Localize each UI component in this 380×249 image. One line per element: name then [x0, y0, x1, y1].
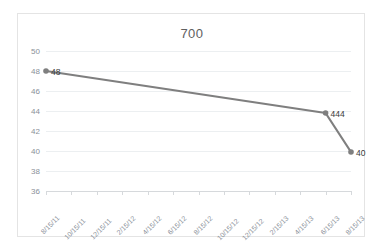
x-axis-tickmark [97, 191, 98, 195]
x-axis-tick-label: 4/15/12 [157, 198, 178, 219]
chart-title: 700 [18, 26, 366, 41]
data-point-marker [323, 110, 329, 116]
x-axis-tickmark [326, 191, 327, 195]
y-axis-tick-label: 48 [31, 67, 40, 76]
data-point-marker [43, 68, 49, 74]
x-axis-tickmark [249, 191, 250, 195]
x-axis-tickmark [46, 191, 47, 195]
x-axis-tickmark [224, 191, 225, 195]
chart-container: 700 5048464442403836 8/15/1110/15/1112/1… [17, 13, 365, 237]
x-axis-tick-label: 10/15/12 [235, 198, 259, 222]
x-axis-tick-label: 10/15/11 [82, 198, 106, 222]
x-axis-tick-label: 2/15/13 [285, 198, 306, 219]
y-axis-tick-label: 36 [31, 187, 40, 196]
x-axis-tickmark [173, 191, 174, 195]
x-axis-tickmark [71, 191, 72, 195]
data-point-label: 444 [331, 109, 345, 119]
x-axis-tick-label: 8/15/13 [361, 198, 380, 219]
y-axis-tick-label: 38 [31, 167, 40, 176]
x-axis-tick-label: 6/15/13 [335, 198, 356, 219]
x-axis-tickmark [199, 191, 200, 195]
x-axis-tick-label: 2/15/12 [132, 198, 153, 219]
plot-area: 5048464442403836 8/15/1110/15/1112/15/11… [46, 51, 351, 191]
x-axis-tick-label: 6/15/12 [183, 198, 204, 219]
series-line [46, 51, 351, 191]
x-axis-tickmark [275, 191, 276, 195]
y-axis-tick-label: 42 [31, 127, 40, 136]
y-axis-tick-label: 44 [31, 107, 40, 116]
data-point-label: 40 [356, 148, 365, 158]
series-polyline [46, 71, 351, 152]
x-axis-tick-label: 8/15/11 [56, 198, 77, 219]
data-point-marker [348, 149, 354, 155]
x-axis-tickmark [148, 191, 149, 195]
y-axis-tick-label: 40 [31, 147, 40, 156]
y-axis-tick-label: 46 [31, 87, 40, 96]
x-axis-tickmark [300, 191, 301, 195]
y-axis-tick-label: 50 [31, 47, 40, 56]
data-point-label: 48 [51, 67, 60, 77]
x-axis-tick-label: 8/15/12 [208, 198, 229, 219]
x-axis-tick-label: 4/15/13 [310, 198, 331, 219]
x-axis-tickmark [122, 191, 123, 195]
x-axis-tickmark [351, 191, 352, 195]
